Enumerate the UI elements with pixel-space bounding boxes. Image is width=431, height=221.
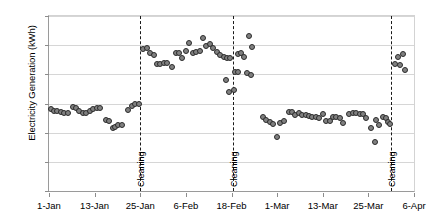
data-point [179,55,185,61]
data-point [227,55,233,61]
y-tick-mark [45,133,49,134]
data-point [368,125,374,131]
data-point [372,139,378,145]
data-point [183,48,189,54]
data-point [400,51,406,57]
data-point [186,40,192,46]
x-tick-mark [140,193,141,197]
data-point [397,62,403,68]
cleaning-event-label: Cleaning [388,151,397,187]
data-point [320,111,326,117]
data-point [248,72,254,78]
data-point [169,64,175,70]
x-tick-mark [186,193,187,197]
data-point [281,118,287,124]
data-point [402,67,408,73]
y-gridline [49,74,414,75]
y-tick-mark [45,191,49,192]
y-tick-mark [45,74,49,75]
cleaning-event-label: Cleaning [230,151,239,187]
data-point [274,134,280,140]
data-point [119,122,125,128]
data-point [231,87,237,93]
data-point [246,33,252,39]
y-tick-mark [45,45,49,46]
x-tick-mark [277,193,278,197]
data-point [249,44,255,50]
data-point [97,105,103,111]
y-tick-mark [45,16,49,17]
x-tick-mark [414,193,415,197]
y-gridline [49,133,414,134]
data-point [197,48,203,54]
x-tick-mark [232,193,233,197]
y-tick-mark [45,104,49,105]
x-tick-mark [323,193,324,197]
data-point [270,121,276,127]
y-tick-mark [45,162,49,163]
cleaning-event-label: Cleaning [137,151,146,187]
x-tick-mark [95,193,96,197]
plot-area: 01020304050601-Jan13-Jan25-Jan6-Feb18-Fe… [48,15,415,192]
data-point [106,118,112,124]
data-point [200,35,206,41]
data-point [387,121,393,127]
data-point [241,54,247,60]
x-tick-label: 6-Apr [386,201,431,211]
data-point [363,115,369,121]
y-gridline [49,16,414,17]
x-tick-mark [368,193,369,197]
data-point [376,122,382,128]
data-point [136,101,142,107]
data-point [65,110,71,116]
y-axis-title: Electricity Generation (kWh) [27,3,37,163]
data-point [151,52,157,58]
data-point [340,120,346,126]
x-tick-mark [49,193,50,197]
data-point [223,77,229,83]
y-gridline [49,104,414,105]
y-gridline [49,45,414,46]
